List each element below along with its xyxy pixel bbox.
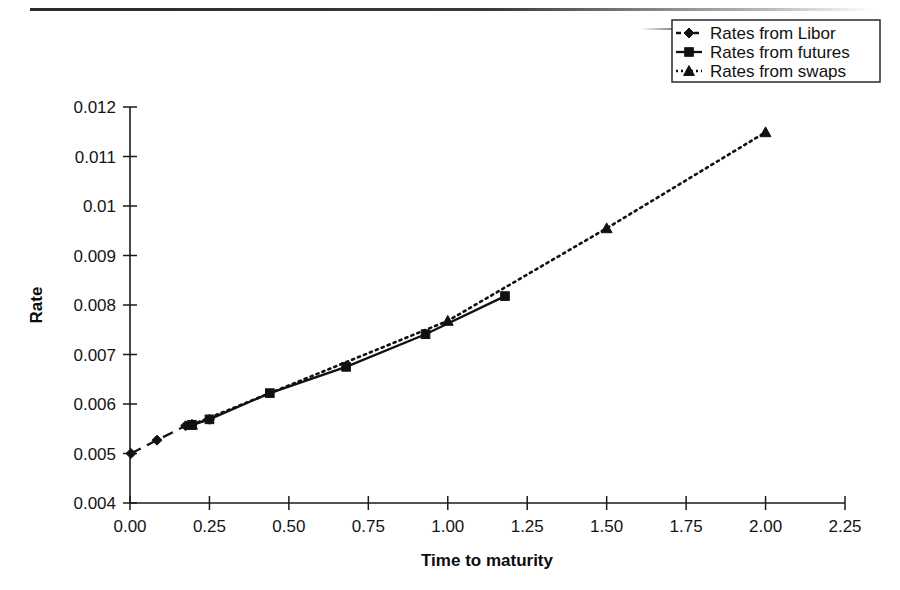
data-point-marker: [601, 223, 612, 233]
y-tick-label: 0.008: [73, 296, 116, 315]
series-line: [192, 132, 766, 425]
series-rates-from-swaps: [192, 132, 766, 425]
y-tick-label: 0.011: [75, 148, 116, 167]
x-tick-label: 1.00: [431, 517, 464, 536]
series-line: [131, 419, 209, 453]
x-tick-label: 1.25: [511, 517, 544, 536]
legend-label: Rates from Libor: [710, 24, 836, 43]
data-point-marker: [421, 330, 430, 339]
data-point-marker: [685, 48, 694, 57]
legend-label: Rates from swaps: [710, 62, 846, 81]
x-tick-label: 1.50: [590, 517, 623, 536]
data-point-marker: [760, 127, 771, 137]
x-tick-label: 0.75: [352, 517, 385, 536]
data-point-marker: [501, 292, 510, 301]
data-point-marker: [442, 315, 453, 325]
x-tick-label: 1.75: [670, 517, 703, 536]
y-tick-label: 0.005: [73, 445, 116, 464]
chart-legend: Rates from LiborRates from futuresRates …: [672, 20, 880, 82]
data-point-marker: [342, 363, 351, 372]
x-axis-ticks: 0.000.250.500.751.001.251.501.752.002.25: [113, 496, 861, 536]
x-tick-label: 0.25: [193, 517, 226, 536]
y-axis-ticks: 0.0040.0050.0060.0070.0080.0090.010.0110…: [73, 98, 137, 513]
y-tick-label: 0.012: [73, 98, 116, 117]
legend-label: Rates from futures: [710, 43, 850, 62]
x-tick-label: 2.00: [749, 517, 782, 536]
y-tick-label: 0.01: [83, 197, 116, 216]
x-tick-label: 2.25: [828, 517, 861, 536]
data-point-marker: [266, 389, 275, 398]
y-axis-title: Rate: [27, 287, 46, 324]
x-tick-label: 0.50: [272, 517, 305, 536]
series-rates-from-libor: [131, 419, 209, 453]
y-tick-label: 0.004: [73, 494, 116, 513]
y-tick-label: 0.009: [73, 247, 116, 266]
data-series-layer: [126, 127, 771, 459]
y-tick-label: 0.007: [73, 346, 116, 365]
series-markers: [187, 127, 771, 429]
x-tick-label: 0.00: [113, 517, 146, 536]
data-point-marker: [152, 435, 162, 445]
data-point-marker: [126, 449, 136, 459]
rate-term-structure-chart: 0.0040.0050.0060.0070.0080.0090.010.0110…: [0, 0, 900, 590]
y-tick-label: 0.006: [73, 395, 116, 414]
x-axis-title: Time to maturity: [421, 551, 553, 570]
chart-svg: 0.0040.0050.0060.0070.0080.0090.010.0110…: [0, 0, 900, 590]
